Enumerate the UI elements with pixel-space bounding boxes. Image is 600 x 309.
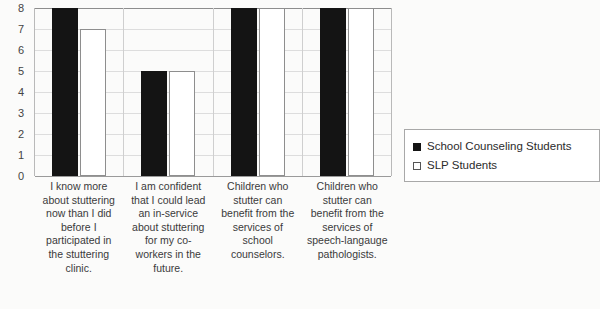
chart-legend: School Counseling StudentsSLP Students [404, 129, 600, 182]
bar [348, 8, 374, 176]
bars [303, 8, 391, 176]
bars [35, 8, 123, 176]
legend-item: SLP Students [413, 156, 599, 175]
y-axis-tick-label: 8 [0, 3, 24, 14]
bar-group [214, 8, 303, 176]
bar [52, 8, 78, 176]
y-axis-tick-label: 6 [0, 45, 24, 56]
y-axis-tick-label: 3 [0, 108, 24, 119]
y-axis-tick-label: 5 [0, 66, 24, 77]
bar [80, 29, 106, 176]
category-axis-labels: I know more about stuttering now than I … [34, 180, 392, 275]
legend-label: SLP Students [427, 159, 497, 172]
y-axis-tick-label: 2 [0, 129, 24, 140]
bar-group [303, 8, 391, 176]
category-label: Children who stutter can benefit from th… [213, 180, 303, 275]
bar-group [124, 8, 213, 176]
legend-swatch-icon [413, 162, 421, 170]
bar-group [35, 8, 124, 176]
bars [124, 8, 212, 176]
legend-swatch-icon [413, 143, 421, 151]
bars [214, 8, 302, 176]
bar [320, 8, 346, 176]
bar [169, 71, 195, 176]
category-label: Children who stutter can benefit from th… [303, 180, 393, 275]
y-axis-tick-label: 0 [0, 171, 24, 182]
y-axis-tick-label: 1 [0, 150, 24, 161]
plot-area [34, 8, 392, 176]
category-label: I am confident that I could lead an in-s… [124, 180, 214, 275]
legend-item: School Counseling Students [413, 137, 599, 156]
y-axis-tick-label: 4 [0, 87, 24, 98]
bar [141, 71, 167, 176]
category-label: I know more about stuttering now than I … [34, 180, 124, 275]
bar [259, 8, 285, 176]
legend-label: School Counseling Students [427, 140, 572, 153]
bar [231, 8, 257, 176]
y-axis: 876543210 [0, 0, 34, 185]
gridline [35, 176, 391, 177]
y-axis-tick-label: 7 [0, 24, 24, 35]
bar-groups [35, 8, 391, 176]
